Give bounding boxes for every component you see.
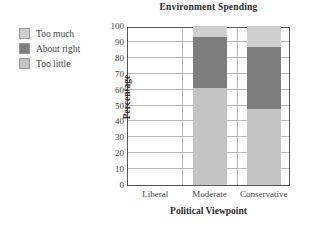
bar-segment: [193, 26, 227, 37]
y-axis-tick-label: 40: [115, 117, 124, 126]
y-axis-tick-label: 100: [111, 22, 125, 31]
y-axis-tick-label: 80: [115, 53, 124, 62]
bar-moderate: [193, 26, 227, 185]
bar-segment: [193, 88, 227, 185]
x-axis-tick-label: Conservative: [240, 189, 288, 199]
category-separator: [182, 28, 183, 185]
legend-label: Too little: [36, 59, 70, 69]
y-axis-tick-label: 30: [115, 133, 124, 142]
plot-area: Percentage 0102030405060708090100Liberal…: [127, 27, 290, 186]
chart-title: Environment Spending: [127, 2, 290, 12]
legend-item: Too little: [19, 56, 80, 71]
x-axis-tick-label: Moderate: [192, 189, 226, 199]
y-axis-tick-label: 10: [115, 165, 124, 174]
y-axis-tick-label: 70: [115, 69, 124, 78]
legend-item: Too much: [19, 26, 80, 41]
legend-label: About right: [36, 44, 80, 54]
legend-swatch-about-right: [19, 43, 30, 54]
bar-segment: [247, 26, 281, 47]
category-separator: [237, 28, 238, 185]
y-axis-tick-label: 90: [115, 37, 124, 46]
bar-segment: [247, 109, 281, 185]
x-axis-title: Political Viewpoint: [127, 206, 290, 216]
legend-item: About right: [19, 41, 80, 56]
chart-legend: Too much About right Too little: [19, 26, 80, 71]
y-axis-tick-label: 60: [115, 85, 124, 94]
bar-segment: [247, 47, 281, 108]
bar-conservative: [247, 26, 281, 185]
legend-label: Too much: [36, 29, 74, 39]
y-axis-title: Percentage: [122, 54, 132, 140]
bar-segment: [193, 37, 227, 88]
legend-swatch-too-much: [19, 28, 30, 39]
y-axis-tick-label: 20: [115, 149, 124, 158]
legend-swatch-too-little: [19, 58, 30, 69]
chart-container: Environment Spending Too much About righ…: [0, 0, 317, 230]
y-axis-tick-label: 0: [120, 181, 125, 190]
y-axis-tick-label: 50: [115, 101, 124, 110]
x-axis-tick-label: Liberal: [142, 189, 168, 199]
